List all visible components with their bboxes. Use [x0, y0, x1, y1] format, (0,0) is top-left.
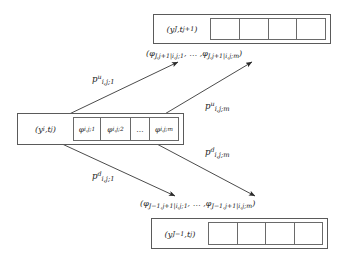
node-box-top: (yJ,tj+1)	[153, 14, 331, 44]
arrow-down-first	[60, 143, 175, 196]
cell-phi-1: φi,j;1	[73, 117, 100, 141]
arrow-label-up-first: pui,j;1	[92, 73, 114, 86]
node-box-bottom: (yJ−1,tj)	[151, 218, 328, 249]
cell	[294, 222, 324, 245]
cell-row-top	[210, 15, 330, 43]
cell	[210, 18, 239, 40]
cell-row-middle: φi,j;1 φi,j;2 … φi,j;m	[73, 114, 183, 144]
cell	[296, 18, 326, 40]
cell	[265, 222, 294, 245]
caption-bottom: (φJ−1,j+1|i,j;1, … ,φJ−1,j+1|i,j;m)	[140, 199, 255, 209]
node-label-bottom: (yJ−1,tj)	[152, 229, 208, 239]
arrow-label-up-last: pui,j;m	[205, 100, 230, 113]
cell	[239, 18, 268, 40]
node-box-middle: (yi,tj) φi,j;1 φi,j;2 … φi,j;m	[17, 113, 184, 145]
cell	[268, 18, 297, 40]
arrow-label-down-last: pdi,j;m	[205, 146, 230, 159]
arrow-up-first	[63, 62, 178, 117]
cell-row-bottom	[208, 219, 327, 248]
cell-phi-ellipsis: …	[130, 117, 149, 141]
caption-top: (φJ,j+1|i,j;1, … ,φJ,j+1|i,j;m)	[146, 49, 242, 59]
node-label-top: (yJ,tj+1)	[154, 24, 210, 34]
arrow-label-down-first: pdi,j;1	[92, 170, 114, 183]
diagram-canvas: (yJ,tj+1) (φJ,j+1|i,j;1, … ,φJ,j+1|i,j;m…	[0, 0, 339, 257]
cell	[208, 222, 237, 245]
cell-phi-m: φi,j;m	[149, 117, 179, 141]
node-label-middle: (yi,tj)	[18, 124, 73, 134]
cell-phi-2: φi,j;2	[100, 117, 130, 141]
cell	[237, 222, 266, 245]
